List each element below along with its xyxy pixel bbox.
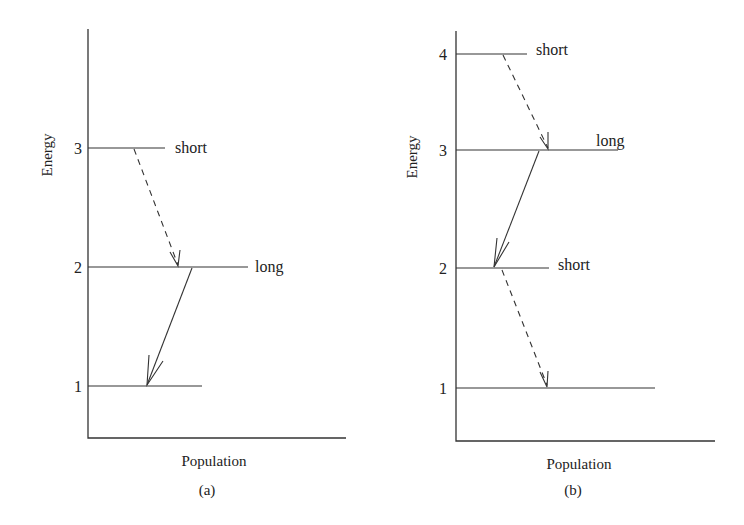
panel-b-xlabel: Population bbox=[546, 456, 612, 472]
panel-a-level-2-lifetime: long bbox=[255, 258, 283, 276]
energy-level-diagram: Energy 3 short 2 long 1 Population (a) E… bbox=[0, 0, 744, 525]
panel-a-ylabel: Energy bbox=[39, 133, 55, 177]
panel-a-axes bbox=[88, 29, 346, 438]
panel-a-caption: (a) bbox=[199, 482, 216, 499]
panel-b-axes bbox=[456, 31, 715, 441]
panel-a-transition-2-to-1 bbox=[147, 268, 192, 385]
panel-b-transition-2-to-1 bbox=[502, 270, 548, 387]
panel-b-level-4-lifetime: short bbox=[536, 41, 569, 58]
panel-b-ylabel: Energy bbox=[404, 135, 420, 179]
panel-b-transition-3-to-2 bbox=[494, 151, 539, 267]
panel-b-level-3-number: 3 bbox=[439, 142, 447, 159]
panel-b-level-2-lifetime: short bbox=[558, 256, 591, 273]
panel-b: Energy 4 short 3 long 2 short 1 Populati… bbox=[404, 31, 715, 499]
panel-b-level-1-number: 1 bbox=[439, 380, 447, 397]
panel-a-transition-3-to-2 bbox=[134, 149, 180, 266]
panel-b-level-3-lifetime: long bbox=[596, 132, 624, 150]
panel-a-xlabel: Population bbox=[181, 453, 247, 469]
panel-a-level-2-number: 2 bbox=[74, 259, 82, 276]
panel-a-level-1-number: 1 bbox=[74, 378, 82, 395]
panel-b-level-2-number: 2 bbox=[439, 260, 447, 277]
panel-b-level-4-number: 4 bbox=[439, 46, 447, 63]
panel-a-level-3-number: 3 bbox=[74, 140, 82, 157]
panel-a: Energy 3 short 2 long 1 Population (a) bbox=[39, 29, 346, 499]
panel-b-caption: (b) bbox=[564, 482, 582, 499]
panel-b-transition-4-to-3 bbox=[503, 55, 548, 149]
panel-a-level-3-lifetime: short bbox=[175, 139, 208, 156]
